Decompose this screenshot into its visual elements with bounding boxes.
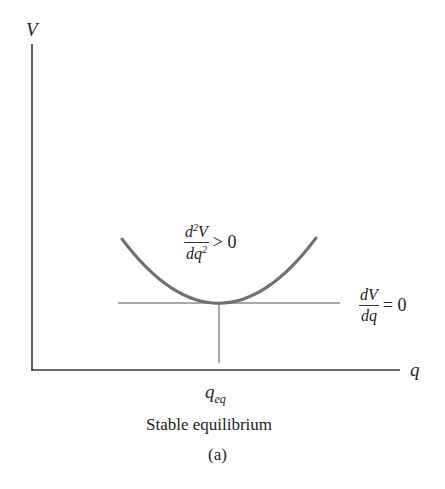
second-derivative-annotation: d2V dq2 > 0 [183,222,236,264]
y-axis-label: V [26,20,38,39]
q-eq-label: qeq [205,382,226,405]
first-derivative-annotation: dV dq = 0 [358,286,406,325]
diagram-caption: (a) [208,446,227,463]
diagram-title: Stable equilibrium [146,416,272,433]
x-axis-label: q [410,360,420,379]
